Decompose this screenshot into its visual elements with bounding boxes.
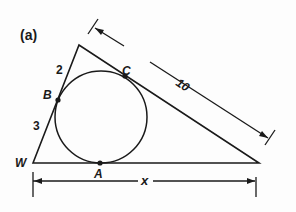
arrowhead-right xyxy=(247,178,255,184)
panel-label: (a) xyxy=(20,28,37,42)
label-point-W: W xyxy=(15,157,26,169)
label-length-x: x xyxy=(141,174,148,187)
diagram-canvas: (a) 2 3 B C W A 10 x xyxy=(0,0,296,212)
arrowhead-top xyxy=(95,28,104,35)
label-point-C: C xyxy=(122,65,131,77)
label-segment-3: 3 xyxy=(33,120,40,132)
label-segment-2: 2 xyxy=(56,64,63,76)
point-B xyxy=(55,97,60,102)
arrowhead-left xyxy=(34,178,42,184)
label-point-A: A xyxy=(94,168,103,180)
triangle xyxy=(33,45,259,163)
point-A xyxy=(97,160,102,165)
label-point-B: B xyxy=(43,89,52,101)
arrowhead-bottom xyxy=(259,131,268,138)
inscribed-circle xyxy=(55,71,147,163)
